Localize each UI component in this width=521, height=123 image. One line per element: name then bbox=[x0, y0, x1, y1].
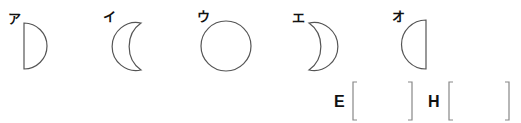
moon-shape-a bbox=[24, 23, 47, 69]
answer-bracket-h-right bbox=[505, 82, 509, 120]
answer-field-e[interactable] bbox=[356, 84, 406, 118]
answer-field-h[interactable] bbox=[452, 84, 504, 118]
moon-shape-e bbox=[309, 23, 338, 71]
moon-shape-o bbox=[402, 20, 426, 69]
answer-label-e: E bbox=[334, 94, 345, 110]
moon-shape-u bbox=[201, 21, 251, 71]
figure-label-i: イ bbox=[103, 10, 116, 23]
figure-label-u: ウ bbox=[197, 10, 210, 23]
figure-label-e: エ bbox=[292, 11, 305, 24]
answer-label-h: H bbox=[428, 94, 440, 110]
answer-bracket-e-right bbox=[408, 82, 412, 120]
figure-label-a: ア bbox=[8, 12, 21, 25]
figure-label-o: オ bbox=[392, 10, 405, 23]
moon-shape-i bbox=[112, 23, 141, 71]
moon-phase-diagram bbox=[0, 0, 521, 123]
